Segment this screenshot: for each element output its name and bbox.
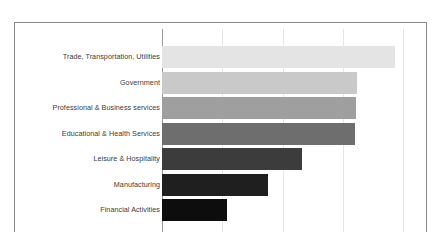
- chart-container: Trade, Transportation, UtilitiesGovernme…: [0, 0, 439, 232]
- bar: [162, 174, 268, 196]
- bar-row: Leisure & Hospitality: [0, 148, 439, 174]
- bar: [162, 72, 357, 94]
- bar-category-label: Manufacturing: [114, 174, 160, 196]
- bar: [162, 97, 356, 119]
- bar-category-label: Leisure & Hospitality: [93, 148, 160, 170]
- bar-category-label: Government: [120, 72, 160, 94]
- bar-row: Financial Activities: [0, 199, 439, 225]
- bar: [162, 148, 302, 170]
- bar-row: Educational & Health Services: [0, 123, 439, 149]
- bars-layer: Trade, Transportation, UtilitiesGovernme…: [0, 0, 439, 232]
- bar-category-label: Educational & Health Services: [62, 123, 160, 145]
- bar-row: Government: [0, 72, 439, 98]
- bar-category-label: Financial Activities: [100, 199, 160, 221]
- bar: [162, 123, 355, 145]
- bar-category-label: Professional & Business services: [53, 97, 160, 119]
- bar-category-label: Trade, Transportation, Utilities: [63, 46, 160, 68]
- bar-row: Trade, Transportation, Utilities: [0, 46, 439, 72]
- bar: [162, 46, 395, 68]
- bar-row: Professional & Business services: [0, 97, 439, 123]
- bar-row: Manufacturing: [0, 174, 439, 200]
- bar: [162, 199, 227, 221]
